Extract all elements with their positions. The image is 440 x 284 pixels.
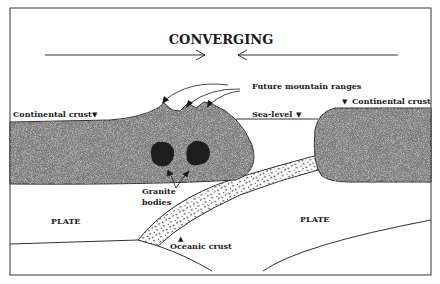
sea-level-marker-icon: ▼	[296, 111, 302, 119]
plate-convergence-diagram: CONVERGING	[0, 0, 440, 284]
label-granite: Granite	[142, 186, 176, 196]
mountain-pointer-arrows	[165, 84, 240, 104]
converging-arrow-left	[238, 50, 398, 60]
granite-body-left	[151, 142, 174, 167]
label-plate-right: PLATE	[300, 214, 329, 224]
down-triangle-icon: ▼	[92, 111, 98, 119]
label-continental-crust-left: Continental crust	[13, 109, 92, 119]
label-bodies: bodies	[142, 197, 172, 207]
converging-arrow-right	[45, 50, 205, 60]
label-oceanic-crust: Oceanic crust	[170, 241, 232, 251]
label-continental-crust-right: Continental crust	[352, 96, 431, 106]
diagram-title: CONVERGING	[169, 32, 274, 47]
label-future-mountain-ranges: Future mountain ranges	[252, 81, 362, 91]
label-plate-left: PLATE	[51, 216, 80, 226]
continental-crust-right-marker-icon: ▼	[342, 98, 348, 106]
granite-body-right	[186, 141, 210, 165]
continental-crust-right	[314, 108, 431, 182]
label-sea-level: Sea-level	[252, 109, 292, 119]
